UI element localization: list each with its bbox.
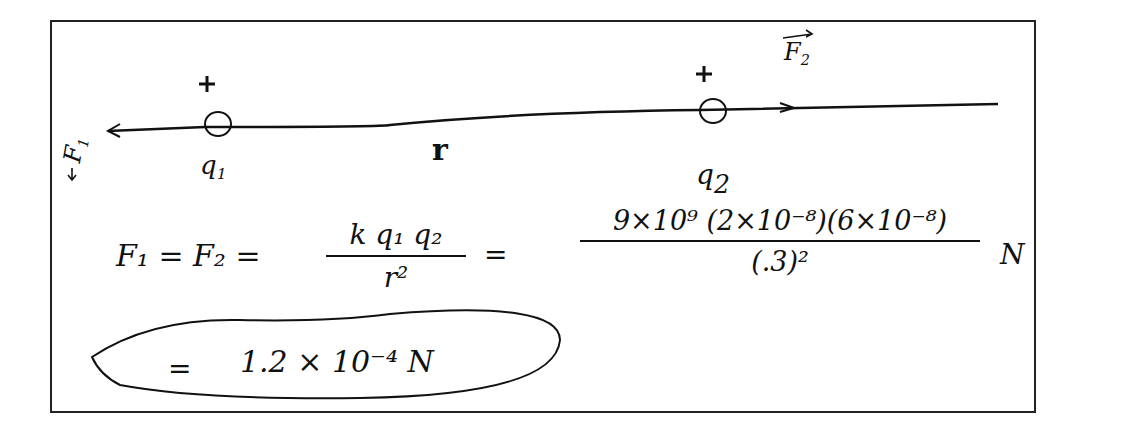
charge-q1-label: q1 — [200, 150, 227, 180]
equation-lhs: F₁ = F₂ = — [116, 238, 261, 273]
result-value: 1.2 × 10⁻⁴ N — [240, 344, 434, 379]
numeric-fraction-bar — [580, 240, 980, 242]
force-f1-label: F1 — [58, 135, 90, 165]
plus-sign-q1-icon — [199, 76, 215, 92]
numeric-numerator: 9×10⁹ (2×10⁻⁸)(6×10⁻⁸) — [580, 205, 980, 236]
unit-label: N — [1000, 238, 1025, 271]
numeric-denominator: (.3)² — [580, 246, 980, 277]
fraction-bar — [326, 255, 466, 257]
force-f2-label: F2 — [784, 38, 810, 66]
vector-arrow-f2-icon — [783, 30, 812, 38]
charge-q1-circle — [205, 112, 231, 136]
result-equals: = — [168, 352, 191, 385]
plus-sign-q2-icon — [696, 66, 712, 82]
equals-sign: = — [484, 238, 507, 271]
separation-line — [108, 104, 998, 131]
vector-arrow-f1-icon — [68, 168, 76, 180]
formula-denominator: r² — [326, 261, 466, 294]
separation-r-label: r — [432, 132, 448, 167]
formula-numerator: k q₁ q₂ — [326, 218, 466, 251]
numeric-substitution: 9×10⁹ (2×10⁻⁸)(6×10⁻⁸) (.3)² — [580, 205, 980, 277]
coulomb-formula: k q₁ q₂ r² — [326, 218, 466, 294]
charge-q2-label: q2 — [696, 158, 730, 191]
